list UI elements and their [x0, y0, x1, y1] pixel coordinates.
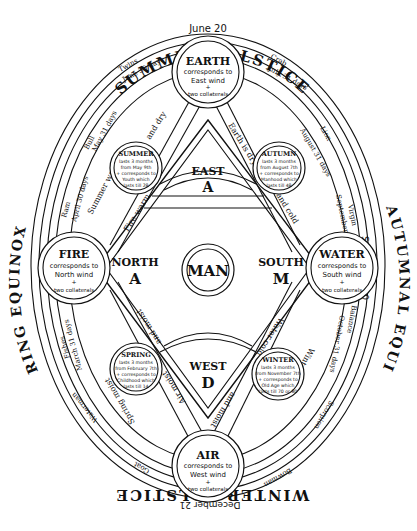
south-letter: M [273, 270, 290, 288]
svg-text:corresponds to: corresponds to [184, 462, 232, 470]
svg-text:+: + [205, 478, 210, 485]
element-air: AIR corresponds to West wind + two colla… [172, 430, 244, 502]
zodiac-lion: Lion [318, 125, 333, 143]
svg-text:two collaterals: two collaterals [322, 287, 362, 293]
svg-text:two collaterals: two collaterals [188, 91, 228, 97]
svg-text:+: + [339, 278, 344, 285]
east-label: EAST [191, 165, 225, 178]
zodiac-balance: Balance [345, 305, 358, 334]
svg-text:Youth which: Youth which [121, 177, 150, 182]
svg-text:lasts 3 months: lasts 3 months [261, 365, 295, 370]
and-moist-2: and moist [208, 391, 237, 430]
zodiac-ram-days: April 30 days [70, 175, 90, 224]
svg-text:lasts 3 months: lasts 3 months [119, 159, 153, 164]
zodiac-bull-days: May 31 days [91, 109, 119, 153]
svg-text:+ corresponds to: + corresponds to [259, 171, 299, 176]
svg-text:two collaterals: two collaterals [188, 486, 228, 492]
element-fire: FIRE corresponds to North wind + two col… [38, 232, 110, 304]
zodiac-goat: Goat [132, 460, 151, 475]
svg-text:corresponds to: corresponds to [318, 262, 366, 270]
svg-text:lasts 3 months: lasts 3 months [262, 159, 296, 164]
svg-text:AUTUMN: AUTUMN [261, 150, 296, 158]
spring-equinox-label: SPRING EQUINOX [0, 0, 41, 377]
zodiac-scorpion: Scorpion [312, 399, 335, 431]
south-label: SOUTH [258, 256, 304, 269]
svg-text:lasts till 14: lasts till 14 [123, 384, 148, 389]
svg-text:SPRING: SPRING [121, 351, 151, 359]
svg-text:from February 7th: from February 7th [115, 366, 157, 371]
svg-text:lasts till 28: lasts till 28 [123, 183, 148, 188]
svg-text:+: + [71, 278, 76, 285]
svg-text:+ corresponds to: + corresponds to [258, 377, 298, 382]
center-man: MAN [182, 244, 234, 296]
svg-text:corresponds to: corresponds to [184, 68, 232, 76]
east-letter: A [202, 179, 215, 195]
west-letter: D [201, 374, 214, 392]
svg-text:AIR: AIR [196, 449, 221, 462]
west-label: WEST [189, 360, 228, 373]
and-moist: and moist [134, 307, 163, 346]
element-water: WATER corresponds to South wind + two co… [306, 232, 378, 304]
svg-text:Childhood which: Childhood which [117, 378, 155, 383]
svg-text:lasts till 70 or 80: lasts till 70 or 80 [259, 389, 298, 394]
season-spring: SPRING lasts 3 months from February 7th … [110, 343, 162, 395]
humors-diagram: SUMMER SOLSTICE SPRING EQUINOX AUTUMNAL … [0, 0, 417, 531]
element-earth: EARTH corresponds to East wind + two col… [172, 36, 244, 108]
man-label: MAN [187, 262, 229, 280]
svg-text:lasts 3 months: lasts 3 months [119, 360, 153, 365]
season-winter: WINTER lasts 3 months from November 7th … [252, 348, 304, 400]
svg-text:from November 7th: from November 7th [255, 371, 300, 376]
and-dry: and dry [144, 110, 168, 142]
svg-text:Manhood which: Manhood which [261, 177, 297, 182]
north-letter: A [128, 270, 141, 288]
svg-text:WATER: WATER [318, 248, 365, 261]
svg-text:two collaterals: two collaterals [54, 287, 94, 293]
svg-text:WINTER: WINTER [261, 356, 294, 364]
svg-text:FIRE: FIRE [59, 248, 89, 261]
season-summer: SUMMER lasts 3 months from May 9th + cor… [110, 142, 162, 194]
svg-text:+ corresponds to: + corresponds to [116, 171, 156, 176]
svg-text:from May 9th: from May 9th [121, 165, 152, 170]
fire-warm: Fire warm [122, 192, 152, 233]
summer-date: June 20 [188, 23, 227, 34]
svg-text:lasts till 48: lasts till 48 [266, 183, 291, 188]
svg-text:SUMMER: SUMMER [118, 150, 154, 158]
svg-text:EARTH: EARTH [186, 55, 230, 68]
svg-text:from August 7th: from August 7th [260, 165, 297, 170]
season-autumn: AUTUMN lasts 3 months from August 7th + … [253, 142, 305, 194]
svg-text:+ corresponds to: + corresponds to [116, 372, 156, 377]
north-label: NORTH [111, 256, 158, 269]
svg-text:Old Age which: Old Age which [262, 383, 295, 388]
svg-text:+: + [205, 83, 210, 90]
svg-text:corresponds to: corresponds to [50, 262, 98, 270]
